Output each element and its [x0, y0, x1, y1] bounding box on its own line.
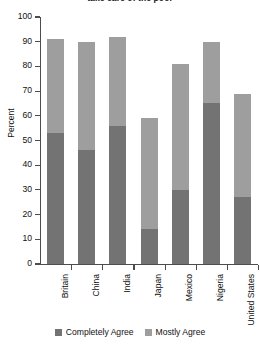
y-axis-tick [35, 165, 40, 166]
y-axis-tick-label: 30 [0, 185, 32, 194]
legend-label: Mostly Agree [156, 327, 206, 337]
bar-segment-completely-agree [172, 190, 189, 264]
legend-item: Mostly Agree [145, 327, 206, 337]
bar-group [47, 17, 64, 264]
y-axis-tick [35, 140, 40, 141]
y-axis-tick-label: 100 [0, 12, 32, 21]
y-axis-tick [35, 214, 40, 215]
bar-group [234, 17, 251, 264]
y-axis-title: Percent [6, 88, 16, 158]
bar-segment-completely-agree [78, 150, 95, 264]
bar-segment-mostly-agree [141, 118, 158, 229]
y-axis-line [40, 17, 41, 265]
bar-segment-mostly-agree [172, 64, 189, 190]
y-axis-tick-label: 50 [0, 136, 32, 145]
y-axis-tick-label: 20 [0, 210, 32, 219]
x-axis-tick [133, 265, 134, 270]
y-axis-tick [35, 189, 40, 190]
chart-title: take care of the poor [0, 0, 260, 3]
bar-segment-mostly-agree [109, 37, 126, 126]
x-axis-tick [71, 265, 72, 270]
y-axis-tick [35, 41, 40, 42]
y-axis-tick-label: 40 [0, 160, 32, 169]
y-axis-tick-label: 90 [0, 37, 32, 46]
y-axis-tick-label: 70 [0, 86, 32, 95]
x-axis-category-label: China [91, 274, 101, 296]
x-axis-tick [165, 265, 166, 270]
legend-swatch-icon [55, 329, 62, 336]
chart-legend: Completely AgreeMostly Agree [0, 327, 260, 337]
bar-segment-completely-agree [47, 133, 64, 264]
bar-segment-completely-agree [141, 229, 158, 264]
x-axis-category-label: United States [246, 274, 256, 326]
y-axis-tick [35, 66, 40, 67]
y-axis-tick [35, 239, 40, 240]
x-axis-category-label: Britain [60, 274, 70, 298]
x-axis-line [40, 264, 258, 265]
x-axis-category-label: Nigeria [215, 274, 225, 301]
bar-group [141, 17, 158, 264]
x-axis-category-label: India [122, 274, 132, 293]
legend-label: Completely Agree [66, 327, 134, 337]
bar-segment-mostly-agree [203, 42, 220, 104]
bar-segment-mostly-agree [47, 39, 64, 133]
bar-group [172, 17, 189, 264]
y-axis-tick-label: 0 [0, 259, 32, 268]
bar-chart-figure: take care of the poor Percent 0102030405… [0, 0, 260, 344]
y-axis-tick [35, 263, 40, 264]
bar-segment-mostly-agree [234, 94, 251, 198]
bar-segment-completely-agree [203, 103, 220, 264]
x-axis-category-label: Japan [153, 274, 163, 297]
x-axis-tick [102, 265, 103, 270]
legend-swatch-icon [145, 329, 152, 336]
y-axis-tick-label: 10 [0, 234, 32, 243]
bar-group [203, 17, 220, 264]
bar-group [78, 17, 95, 264]
x-axis-tick [258, 265, 259, 270]
y-axis-tick [35, 16, 40, 17]
y-axis-tick [35, 91, 40, 92]
x-axis-tick [196, 265, 197, 270]
y-axis-tick-label: 60 [0, 111, 32, 120]
y-axis-tick [35, 115, 40, 116]
x-axis-tick [227, 265, 228, 270]
bar-group [109, 17, 126, 264]
bar-segment-mostly-agree [78, 42, 95, 151]
legend-item: Completely Agree [55, 327, 134, 337]
x-axis-category-label: Mexico [184, 274, 194, 301]
y-axis-tick-label: 80 [0, 61, 32, 70]
bar-segment-completely-agree [109, 126, 126, 264]
bar-segment-completely-agree [234, 197, 251, 264]
